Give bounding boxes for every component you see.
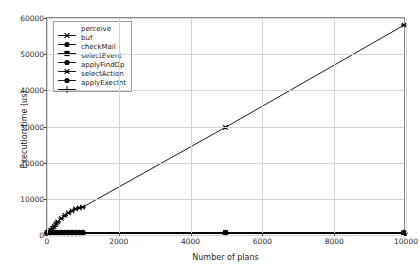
- circle-marker-icon: [57, 70, 77, 79]
- chart-figure: perceivebufcheckMailselectEventapplyFind…: [0, 0, 420, 279]
- y-axis-label: Execution time (us): [20, 60, 29, 200]
- x-tick-label: 10000: [394, 237, 418, 246]
- star-marker-icon: [57, 61, 77, 70]
- legend-item-perceive[interactable]: perceive: [57, 25, 126, 34]
- x-tick-mark: [406, 233, 407, 236]
- chart-legend: perceivebufcheckMailselectEventapplyFind…: [53, 21, 132, 92]
- y-tick-label: 50000: [20, 50, 44, 59]
- gridline-horizontal: [47, 163, 404, 164]
- gridline-horizontal: [47, 199, 404, 200]
- gridline-vertical: [406, 18, 407, 233]
- legend-item-label: perceive: [81, 25, 111, 34]
- square-marker-icon: [57, 43, 77, 52]
- x-tick-label: 0: [45, 237, 50, 246]
- x-tick-mark: [119, 233, 120, 236]
- gridline-horizontal: [47, 235, 404, 236]
- gridline-vertical: [47, 18, 48, 233]
- gridline-vertical: [334, 18, 335, 233]
- legend-item-label: checkMail: [81, 43, 116, 52]
- legend-item-applyExecInt[interactable]: applyExecInt: [57, 79, 126, 88]
- plus-marker-icon: [57, 79, 77, 88]
- x-tick-label: 2000: [109, 237, 128, 246]
- circle-marker-icon: [57, 34, 77, 43]
- x-tick-label: 8000: [325, 237, 344, 246]
- x-axis-label: Number of plans: [46, 253, 405, 262]
- plot-area: perceivebufcheckMailselectEventapplyFind…: [46, 17, 405, 234]
- legend-item-selectAction[interactable]: selectAction: [57, 70, 126, 79]
- x-tick-label: 4000: [181, 237, 200, 246]
- legend-item-label: buf: [81, 34, 92, 43]
- y-tick-label: 60000: [20, 14, 44, 23]
- gridline-horizontal: [47, 127, 404, 128]
- x-tick-label: 6000: [253, 237, 272, 246]
- gridline-vertical: [262, 18, 263, 233]
- legend-item-checkMail[interactable]: checkMail: [57, 43, 126, 52]
- x-tick-mark: [191, 233, 192, 236]
- legend-item-applyFindOp[interactable]: applyFindOp: [57, 61, 126, 70]
- x-tick-mark: [47, 233, 48, 236]
- gridline-horizontal: [47, 18, 404, 19]
- gridline-vertical: [119, 18, 120, 233]
- legend-item-buf[interactable]: buf: [57, 34, 126, 43]
- x-tick-mark: [262, 233, 263, 236]
- gridline-vertical: [191, 18, 192, 233]
- gridline-horizontal: [47, 90, 404, 91]
- data-point-star: [80, 205, 86, 209]
- y-tick-label: 0: [39, 231, 44, 240]
- star-marker-icon: [57, 25, 77, 34]
- gridline-horizontal: [47, 54, 404, 55]
- legend-item-label: selectAction: [81, 70, 124, 79]
- x-tick-mark: [334, 233, 335, 236]
